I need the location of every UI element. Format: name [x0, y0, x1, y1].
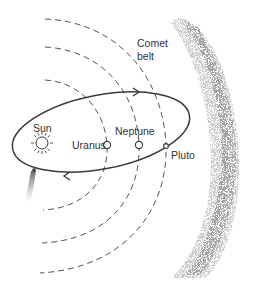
uranus-label: Uranus [72, 139, 106, 151]
neptune-label: Neptune [115, 125, 155, 137]
diagram-canvas [0, 0, 258, 290]
pluto-label: Pluto [171, 149, 195, 161]
sun-icon [31, 132, 53, 154]
sun-label: Sun [33, 122, 52, 134]
comet-belt-label-line1: Comet [137, 37, 168, 49]
arrow-left-icon [64, 172, 70, 180]
comet-belt-band [170, 18, 239, 278]
neptune-icon [135, 141, 142, 148]
comet-belt-label-line2: belt [137, 50, 154, 62]
comet-icon [25, 168, 36, 202]
pluto-icon [164, 144, 169, 149]
solar-system-comet-diagram: Sun Uranus Neptune Pluto Comet belt [0, 0, 258, 290]
